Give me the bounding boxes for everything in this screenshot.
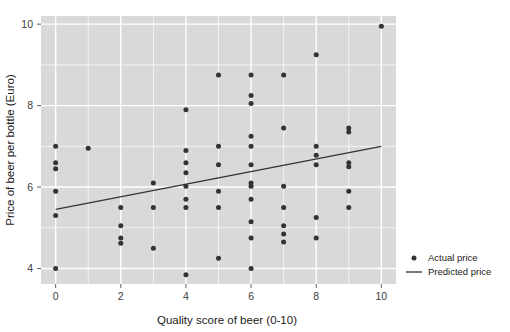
data-point xyxy=(183,272,188,277)
data-point xyxy=(86,146,91,151)
legend-marker-actual-price xyxy=(412,256,417,261)
x-tick-label: 6 xyxy=(248,290,254,302)
data-point xyxy=(281,126,286,131)
data-point xyxy=(249,266,254,271)
data-point xyxy=(118,205,123,210)
data-point xyxy=(118,223,123,228)
y-tick-label: 10 xyxy=(21,18,33,30)
data-point xyxy=(53,166,58,171)
data-point xyxy=(314,153,319,158)
data-point xyxy=(53,213,58,218)
data-point xyxy=(53,160,58,165)
data-point xyxy=(183,205,188,210)
x-tick-label: 4 xyxy=(183,290,189,302)
data-point xyxy=(281,223,286,228)
legend-label: Actual price xyxy=(428,252,478,263)
data-point xyxy=(151,246,156,251)
x-tick-label: 10 xyxy=(376,290,388,302)
data-point xyxy=(249,197,254,202)
x-axis-title: Quality score of beer (0-10) xyxy=(157,314,297,326)
data-point xyxy=(216,205,221,210)
x-tick-label: 8 xyxy=(313,290,319,302)
scatter-plot-svg: 024681046810 Actual pricePredicted price… xyxy=(0,0,510,332)
data-point xyxy=(249,144,254,149)
data-point xyxy=(249,219,254,224)
data-point xyxy=(216,189,221,194)
y-tick-label: 4 xyxy=(27,262,33,274)
x-tick-label: 2 xyxy=(118,290,124,302)
data-point xyxy=(216,73,221,78)
data-point xyxy=(314,52,319,57)
data-point xyxy=(249,73,254,78)
data-point xyxy=(53,189,58,194)
data-point xyxy=(53,144,58,149)
data-point xyxy=(183,184,188,189)
data-point xyxy=(379,24,384,29)
data-point xyxy=(249,134,254,139)
data-point xyxy=(183,148,188,153)
data-point xyxy=(151,205,156,210)
y-tick-label: 6 xyxy=(27,181,33,193)
data-point xyxy=(249,235,254,240)
data-point xyxy=(314,235,319,240)
y-tick-label: 8 xyxy=(27,99,33,111)
data-point xyxy=(249,162,254,167)
data-point xyxy=(281,205,286,210)
data-point xyxy=(281,184,286,189)
data-point xyxy=(183,197,188,202)
data-point xyxy=(216,144,221,149)
data-point xyxy=(249,184,254,189)
data-point xyxy=(183,160,188,165)
data-point xyxy=(346,164,351,169)
data-point xyxy=(314,162,319,167)
chart-figure: 024681046810 Actual pricePredicted price… xyxy=(0,0,510,332)
data-point xyxy=(216,256,221,261)
data-point xyxy=(216,162,221,167)
data-point xyxy=(281,240,286,245)
data-point xyxy=(346,130,351,135)
data-point xyxy=(281,231,286,236)
data-point xyxy=(249,101,254,106)
data-point xyxy=(346,189,351,194)
data-point xyxy=(346,205,351,210)
data-point xyxy=(314,144,319,149)
data-point xyxy=(183,107,188,112)
data-point xyxy=(118,241,123,246)
legend-label: Predicted price xyxy=(428,266,491,277)
data-point xyxy=(151,180,156,185)
y-axis-title: Price of beer per bottle (Euro) xyxy=(4,74,16,226)
data-point xyxy=(118,235,123,240)
data-point xyxy=(53,266,58,271)
data-point xyxy=(183,170,188,175)
data-point xyxy=(314,215,319,220)
data-point xyxy=(281,73,286,78)
x-tick-label: 0 xyxy=(53,290,59,302)
data-point xyxy=(249,93,254,98)
